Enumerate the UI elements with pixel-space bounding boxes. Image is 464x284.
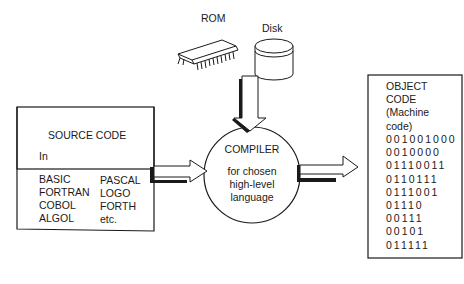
language-item: BASIC	[39, 173, 90, 186]
object-title-line: code)	[386, 120, 429, 133]
machine-code-list: 001001000 0010000 01110011 0110111 01110…	[386, 133, 457, 252]
object-code-title: OBJECT CODE (Machine code)	[386, 80, 429, 133]
source-in-label: In	[39, 150, 48, 163]
machine-code-line: 01110	[386, 199, 457, 212]
compiler-subtitle-line: language	[204, 191, 300, 204]
machine-code-line: 01110011	[386, 159, 457, 172]
compiler-subtitle: for chosen high-level language	[204, 165, 300, 204]
machine-code-line: 00101	[386, 225, 457, 238]
language-item: etc.	[100, 213, 141, 226]
compiler-subtitle-line: for chosen	[204, 165, 300, 178]
languages-left-column: BASIC FORTRAN COBOL ALGOL	[39, 173, 90, 225]
language-item: ALGOL	[39, 212, 90, 225]
language-item: FORTRAN	[39, 186, 90, 199]
language-item: FORTH	[100, 200, 141, 213]
rom-chip-icon	[178, 40, 238, 70]
arrow-source-to-compiler-icon	[150, 160, 207, 183]
machine-code-line: 0010000	[386, 146, 457, 159]
rom-label: ROM	[201, 12, 226, 25]
languages-right-column: PASCAL LOGO FORTH etc.	[100, 174, 141, 226]
source-code-title: SOURCE CODE	[48, 129, 126, 142]
language-item: PASCAL	[100, 174, 141, 187]
object-title-line: OBJECT	[386, 80, 429, 93]
arrow-down-into-compiler-icon	[232, 76, 266, 133]
disk-label: Disk	[262, 22, 282, 35]
machine-code-line: 001001000	[386, 133, 457, 146]
arrow-compiler-to-object-icon	[297, 156, 358, 182]
object-title-line: (Machine	[386, 106, 429, 119]
machine-code-line: 0110111	[386, 173, 457, 186]
compiler-title: COMPILER	[204, 143, 300, 156]
disk-icon	[255, 39, 293, 80]
machine-code-line: 00111	[386, 212, 457, 225]
machine-code-line: 0111001	[386, 186, 457, 199]
language-item: COBOL	[39, 199, 90, 212]
machine-code-line: 011111	[386, 239, 457, 252]
language-item: LOGO	[100, 187, 141, 200]
object-title-line: CODE	[386, 93, 429, 106]
compiler-subtitle-line: high-level	[204, 178, 300, 191]
